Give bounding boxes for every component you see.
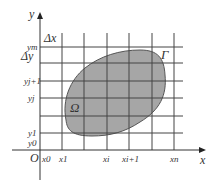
y-axis-label: y (28, 7, 35, 21)
y-tick-yj1: yj+1 (23, 76, 41, 86)
gamma-label: Γ (160, 47, 169, 62)
omega-label: Ω (70, 100, 79, 115)
y-tick-y0: y0 (27, 138, 37, 148)
y-tick-y1: y1 (27, 128, 37, 138)
x-tick-xi: xi (102, 154, 110, 164)
y-tick-ym: ym (26, 42, 38, 52)
grid-region-diagram: y x O Δx Δy ym yj+1 yj y1 y0 x0 x1 xi xi… (0, 0, 213, 181)
origin-label: O (30, 151, 39, 165)
x-axis-label: x (199, 153, 206, 167)
y-tick-yj: yj (27, 93, 35, 103)
x-tick-x1: x1 (58, 154, 68, 164)
x-tick-x0: x0 (41, 154, 51, 164)
x-tick-xi1: xi+1 (121, 154, 139, 164)
y-axis-arrow-icon (37, 12, 43, 19)
delta-x-label: Δx (43, 31, 57, 45)
x-tick-xn: xn (169, 154, 179, 164)
